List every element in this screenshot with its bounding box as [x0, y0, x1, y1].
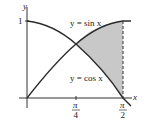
chart-canvas: y 1 x y = sin x y = cos x π 4 π 2: [0, 0, 156, 129]
x-tick-label-pi-2-num: π: [120, 100, 125, 110]
x-axis-label: x: [132, 92, 137, 102]
cos-curve-label: y = cos x: [70, 73, 103, 83]
y-axis-label: y: [22, 1, 27, 11]
y-tick-label-1: 1: [18, 16, 23, 26]
x-tick-label-pi-4-den: 4: [74, 110, 79, 120]
sin-curve-label: y = sin x: [70, 18, 102, 28]
x-tick-label-pi-2-den: 2: [121, 110, 126, 120]
x-tick-label-pi-4-num: π: [73, 100, 78, 110]
shaded-region: [76, 21, 123, 98]
